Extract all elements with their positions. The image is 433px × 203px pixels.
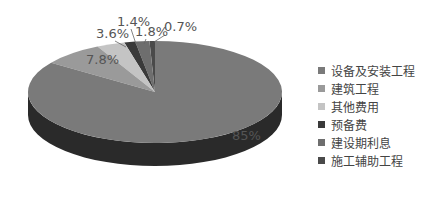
legend-swatch-icon: [318, 157, 325, 164]
legend-label: 施工辅助工程: [331, 152, 403, 169]
legend: 设备及安装工程 建筑工程 其他费用 预备费 建设期利息 施工辅助工程: [318, 61, 415, 169]
data-label: 85%: [232, 128, 261, 143]
legend-swatch-icon: [318, 139, 325, 146]
legend-label: 建筑工程: [331, 80, 379, 97]
legend-item: 其他费用: [318, 97, 415, 115]
data-label: 7.8%: [86, 52, 119, 67]
legend-item: 建筑工程: [318, 79, 415, 97]
legend-item: 预备费: [318, 115, 415, 133]
legend-swatch-icon: [318, 67, 325, 74]
legend-swatch-icon: [318, 85, 325, 92]
legend-label: 建设期利息: [331, 134, 391, 151]
legend-label: 其他费用: [331, 98, 379, 115]
legend-swatch-icon: [318, 103, 325, 110]
legend-item: 施工辅助工程: [318, 151, 415, 169]
data-label: 0.7%: [164, 19, 197, 34]
legend-item: 设备及安装工程: [318, 61, 415, 79]
legend-label: 设备及安装工程: [331, 62, 415, 79]
legend-item: 建设期利息: [318, 133, 415, 151]
legend-label: 预备费: [331, 116, 367, 133]
legend-swatch-icon: [318, 121, 325, 128]
